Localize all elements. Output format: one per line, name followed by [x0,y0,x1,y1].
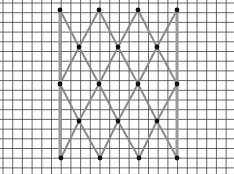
lattice-edge [60,84,79,121]
lattice-edge [157,84,177,121]
lattice-edge [118,84,138,121]
lattice-dot [98,156,103,161]
lattice-edge [157,47,177,84]
lattice-dot [155,119,160,124]
lattice-dot [97,82,102,87]
lattice-dot [137,156,142,161]
lattice-edge [79,47,99,84]
grid-lines [0,0,234,174]
lattice-edge [99,84,118,121]
lattice-dot [116,119,121,124]
lattice-dot [175,8,180,13]
lattice-edge [79,121,100,158]
lattice-dot [58,82,63,87]
lattice-dot [175,156,180,161]
lattice-edge [100,121,118,158]
lattice-dot [58,8,63,13]
lattice-edge [60,47,79,84]
lattice-edge [118,121,139,158]
lattice-dot [136,8,141,13]
lattice-edge [139,121,157,158]
lattice-dot [59,156,64,161]
lattice-dots [58,8,180,161]
lattice-edge [61,121,79,158]
lattice-dot [136,82,141,87]
grid-paper-figure [0,0,234,174]
lattice-dot [155,45,160,50]
lattice-edge [138,84,157,121]
lattice-dot [77,119,82,124]
lattice-edge [118,47,138,84]
lattice-dot [175,82,180,87]
lattice-diagram [0,0,234,174]
lattice-dot [116,45,121,50]
lattice-edge [138,47,157,84]
lattice-edge [157,121,177,158]
lattice-dot [77,45,82,50]
lattice-edge [99,47,118,84]
lattice-dot [97,8,102,13]
lattice-edge [79,84,99,121]
